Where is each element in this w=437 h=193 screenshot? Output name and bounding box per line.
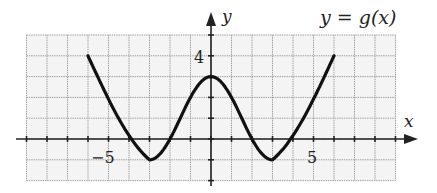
y-tick-4: 4 xyxy=(194,48,204,67)
x-tick-neg5: −5 xyxy=(91,148,115,167)
y-axis-label: y xyxy=(221,6,232,26)
chart-title: y = g(x) xyxy=(319,6,396,28)
x-tick-5: 5 xyxy=(307,148,317,167)
x-axis-label: x xyxy=(404,111,414,131)
graph-canvas: y = g(x) y x −5 5 4 xyxy=(0,0,437,193)
